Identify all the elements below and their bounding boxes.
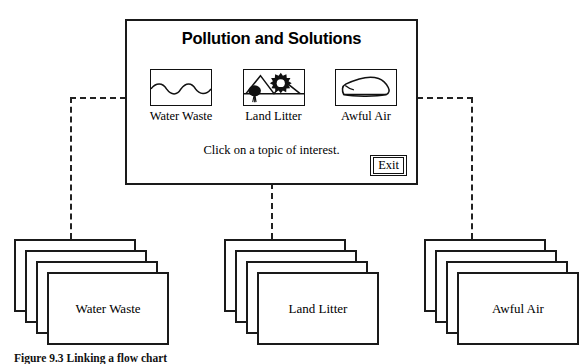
topic-button-land-litter[interactable]: Land Litter xyxy=(234,69,314,124)
dashed-connector-left-horizontal xyxy=(70,97,126,99)
water-waves-icon[interactable] xyxy=(150,69,212,106)
page-title: Pollution and Solutions xyxy=(127,29,416,48)
dashed-connector-right-horizontal xyxy=(417,97,473,99)
water-waves-icon-glyph xyxy=(151,70,211,105)
topic-label-water-waste: Water Waste xyxy=(141,109,221,124)
exit-button[interactable]: Exit xyxy=(370,155,407,176)
exit-button-label: Exit xyxy=(373,157,404,174)
card-stack-water-waste[interactable]: Water Waste xyxy=(14,239,179,344)
card-label-water-waste: Water Waste xyxy=(75,301,140,317)
card-label-land-litter: Land Litter xyxy=(289,301,348,317)
pollution-and-solutions-panel: Pollution and Solutions Water Waste xyxy=(125,19,418,185)
card-label-awful-air: Awful Air xyxy=(492,301,544,317)
dashed-connector-right-vertical xyxy=(471,97,473,239)
car-vehicle-icon[interactable] xyxy=(335,69,397,106)
dashed-connector-left-vertical xyxy=(70,97,72,239)
figure-caption: Figure 9.3 Linking a flow chart xyxy=(14,352,167,364)
car-vehicle-icon-glyph xyxy=(336,70,396,105)
topic-button-row: Water Waste xyxy=(141,69,406,124)
topic-button-water-waste[interactable]: Water Waste xyxy=(141,69,221,124)
card-front[interactable]: Awful Air xyxy=(457,272,579,345)
card-front[interactable]: Land Litter xyxy=(257,272,379,345)
tree-icon xyxy=(248,85,261,102)
topic-label-awful-air: Awful Air xyxy=(326,109,406,124)
card-stack-land-litter[interactable]: Land Litter xyxy=(224,239,389,344)
land-mountains-sun-tree-icon[interactable] xyxy=(243,69,305,106)
topic-label-land-litter: Land Litter xyxy=(234,109,314,124)
topic-button-awful-air[interactable]: Awful Air xyxy=(326,69,406,124)
card-front[interactable]: Water Waste xyxy=(47,272,169,345)
land-mountains-sun-tree-icon-glyph xyxy=(244,70,304,105)
sun-starburst-icon xyxy=(269,73,291,94)
card-stack-awful-air[interactable]: Awful Air xyxy=(424,239,583,344)
